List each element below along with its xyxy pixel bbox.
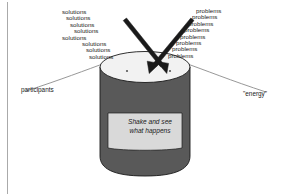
rim-dot-right <box>169 70 171 72</box>
energy-label: "energy" <box>243 90 267 97</box>
problems-word-stack: problems problems problems problems prob… <box>168 8 221 59</box>
rim-dot-left <box>126 70 128 72</box>
diagram-canvas: solutions solutions solutions solutions … <box>0 0 291 196</box>
solutions-word-stack: solutions solutions solutions solutions … <box>62 9 113 60</box>
participants-label: participants <box>21 86 54 93</box>
cylinder-diagram <box>0 0 291 196</box>
solutions-word: solutions <box>89 54 113 60</box>
caption-line-2: what happens <box>129 127 170 134</box>
caption-line-1: Shake and see <box>128 118 172 125</box>
cylinder-caption: Shake and see what happens <box>112 117 188 135</box>
energy-curve <box>182 62 266 92</box>
problems-word: problems <box>168 53 221 59</box>
